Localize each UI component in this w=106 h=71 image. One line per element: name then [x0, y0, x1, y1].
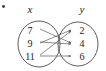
- domain-element-value: 11: [25, 51, 35, 62]
- mapping-diagram-figure: x y 7 9 11 2 4 6: [0, 0, 106, 71]
- domain-set-label: x: [27, 3, 33, 15]
- range-element-value: 4: [80, 38, 85, 49]
- diagram-canvas: x y 7 9 11 2 4 6: [0, 0, 106, 71]
- range-element-value: 6: [80, 51, 85, 62]
- corner-bullet-icon: [2, 5, 5, 8]
- range-oval: [58, 22, 98, 66]
- range-set-label: y: [79, 3, 85, 15]
- mapping-arrow: [40, 31, 71, 55]
- range-element-value: 2: [80, 25, 85, 36]
- domain-element-value: 9: [28, 38, 33, 49]
- domain-element-value: 7: [28, 25, 33, 36]
- mapping-arrow-group: [40, 29, 71, 56]
